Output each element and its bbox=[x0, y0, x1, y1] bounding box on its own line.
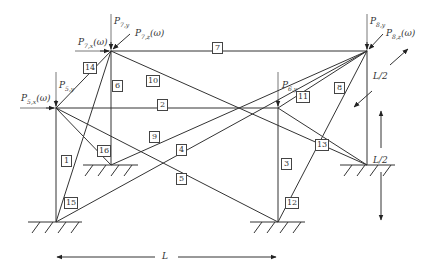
member-11 bbox=[278, 51, 367, 108]
load-label-p7y: P7,y bbox=[114, 17, 129, 28]
member-label-3: 3 bbox=[281, 158, 292, 170]
ground-support-g3 bbox=[83, 165, 138, 176]
load-label-p8y: P8,y bbox=[370, 17, 385, 28]
ground-support-g1 bbox=[28, 222, 82, 233]
load-label-p5y: P5,y bbox=[59, 81, 74, 92]
dim-width-label: L bbox=[162, 252, 168, 261]
truss-diagram bbox=[0, 0, 425, 273]
member-13 bbox=[278, 108, 367, 165]
member-label-14: 14 bbox=[83, 62, 97, 74]
dim-height-label: L/2 bbox=[373, 156, 388, 165]
dim-depth-label: L/2 bbox=[373, 72, 388, 81]
load-label-p5x: P5,x(ω) bbox=[21, 94, 51, 105]
load-label-p7z: P7,z(ω) bbox=[135, 29, 164, 40]
member-label-9: 9 bbox=[149, 131, 160, 143]
member-label-15: 15 bbox=[64, 197, 78, 209]
member-label-16: 16 bbox=[97, 145, 111, 157]
load-label-p6y: P6,y bbox=[282, 81, 297, 92]
member-label-7: 7 bbox=[212, 42, 223, 54]
load-label-p7x: P7,x(ω) bbox=[78, 38, 108, 49]
truss-members bbox=[56, 51, 367, 222]
load-arrow-p7z bbox=[113, 34, 130, 49]
member-label-11: 11 bbox=[296, 91, 310, 103]
ground-support-g4 bbox=[340, 165, 395, 176]
ground-support-g2 bbox=[250, 222, 305, 233]
member-label-2: 2 bbox=[157, 99, 168, 111]
load-label-p8z: P8,z(ω) bbox=[386, 29, 415, 40]
member-label-6: 6 bbox=[112, 80, 123, 92]
reference-lines bbox=[20, 14, 367, 108]
load-arrow-p8z bbox=[369, 34, 383, 49]
member-label-8: 8 bbox=[334, 82, 345, 94]
member-label-1: 1 bbox=[61, 155, 72, 167]
dim-depth-lower-arrow bbox=[354, 91, 372, 107]
member-label-12: 12 bbox=[285, 197, 299, 209]
member-label-10: 10 bbox=[146, 75, 160, 87]
member-label-13: 13 bbox=[315, 139, 329, 151]
dim-depth-upper-arrow bbox=[390, 49, 408, 65]
member-label-5: 5 bbox=[176, 173, 187, 185]
member-label-4: 4 bbox=[176, 144, 187, 156]
